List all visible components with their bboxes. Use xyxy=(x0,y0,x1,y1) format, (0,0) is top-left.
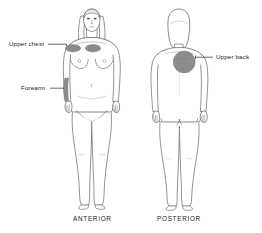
right-arm xyxy=(113,44,120,102)
diagram-canvas: Upper chest Forearm Upper back ANTERIOR … xyxy=(0,0,262,233)
anterior-figure xyxy=(63,9,120,209)
left-leg xyxy=(72,112,92,205)
application-site-chest-left xyxy=(65,45,80,52)
hair-back xyxy=(168,9,190,48)
view-caption-anterior: ANTERIOR xyxy=(73,215,112,223)
callout-label-upper-chest: Upper chest xyxy=(9,40,44,48)
left-hand-back xyxy=(153,111,160,123)
callout-label-upper-back: Upper back xyxy=(216,53,249,61)
anatomical-figures-illustration xyxy=(0,0,262,233)
view-caption-posterior: POSTERIOR xyxy=(157,215,201,223)
right-eye xyxy=(94,18,97,20)
application-site-forearm xyxy=(63,78,68,101)
right-leg xyxy=(92,112,112,205)
left-eye xyxy=(87,18,90,20)
left-arm-back xyxy=(151,54,158,112)
left-foot-back xyxy=(166,206,176,210)
right-leg-back xyxy=(179,122,199,206)
left-leg-back xyxy=(160,122,180,206)
application-site-upper-back xyxy=(173,51,195,73)
posterior-figure xyxy=(151,9,208,210)
left-hand xyxy=(65,101,72,113)
right-hand xyxy=(113,101,120,113)
callout-label-forearm: Forearm xyxy=(21,84,45,92)
right-foot xyxy=(95,205,105,209)
right-hand-back xyxy=(200,111,207,123)
right-arm-back xyxy=(200,54,207,112)
application-site-chest-right xyxy=(85,45,100,52)
right-foot-back xyxy=(183,206,193,210)
left-foot xyxy=(79,205,89,209)
